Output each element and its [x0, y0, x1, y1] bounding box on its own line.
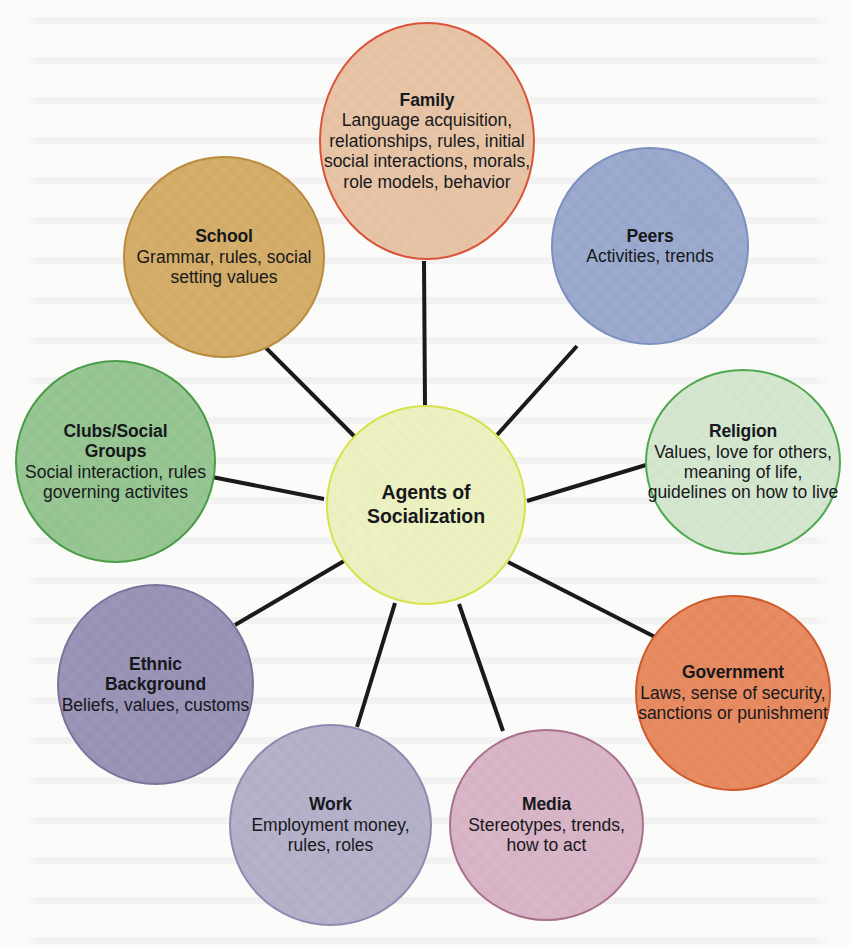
node-center-agents-of-socialization[interactable]: Agents of Socialization	[326, 405, 526, 605]
diagram-canvas: School Grammar, rules, social setting va…	[0, 0, 851, 946]
node-school-body: Grammar, rules, social setting values	[125, 247, 323, 288]
node-ethnic-background-title: Ethnic	[129, 654, 182, 674]
node-school-title: School	[195, 226, 253, 246]
node-work[interactable]: Work Employment money, rules, roles	[229, 724, 432, 926]
node-family-title: Family	[400, 90, 455, 110]
center-title-line1: Agents of	[381, 481, 470, 505]
connector-center-to-peers	[497, 346, 577, 435]
node-clubs-social-groups[interactable]: Clubs/Social Groups Social interaction, …	[15, 360, 216, 563]
node-religion-title: Religion	[709, 421, 777, 441]
connector-center-to-work	[357, 603, 395, 727]
node-religion-body: Values, love for others, meaning of life…	[647, 442, 839, 503]
connector-center-to-clubs	[212, 477, 324, 499]
connector-center-to-family	[424, 261, 425, 406]
node-clubs-social-groups-title2: Groups	[85, 441, 147, 461]
node-media-title: Media	[522, 794, 571, 814]
node-family[interactable]: Family Language acquisition, relationshi…	[319, 22, 535, 260]
node-clubs-social-groups-body: Social interaction, rules governing acti…	[17, 462, 214, 503]
node-clubs-social-groups-title: Clubs/Social	[64, 421, 168, 441]
node-media-body: Stereotypes, trends, how to act	[451, 815, 642, 856]
node-government-body: Laws, sense of security, sanctions or pu…	[637, 683, 829, 724]
node-religion[interactable]: Religion Values, love for others, meanin…	[645, 369, 841, 555]
node-peers-title: Peers	[626, 226, 673, 246]
connector-center-to-media	[459, 604, 503, 731]
connector-center-to-government	[508, 562, 659, 639]
node-government[interactable]: Government Laws, sense of security, sanc…	[635, 595, 831, 791]
connector-center-to-school	[253, 335, 355, 437]
node-school[interactable]: School Grammar, rules, social setting va…	[123, 156, 325, 358]
node-government-title: Government	[682, 662, 784, 682]
node-family-body: Language acquisition, relationships, rul…	[321, 110, 533, 192]
connector-center-to-religion	[527, 465, 646, 501]
center-title-line2: Socialization	[367, 505, 485, 529]
connector-center-to-ethnic	[235, 561, 344, 625]
node-peers[interactable]: Peers Activities, trends	[551, 147, 749, 345]
node-work-title: Work	[309, 794, 352, 814]
node-ethnic-background-title2: Background	[105, 674, 206, 694]
node-ethnic-background[interactable]: Ethnic Background Beliefs, values, custo…	[57, 584, 254, 785]
node-peers-body: Activities, trends	[586, 246, 713, 266]
node-media[interactable]: Media Stereotypes, trends, how to act	[449, 729, 644, 921]
node-ethnic-background-body: Beliefs, values, customs	[62, 695, 250, 715]
node-work-body: Employment money, rules, roles	[231, 815, 430, 856]
